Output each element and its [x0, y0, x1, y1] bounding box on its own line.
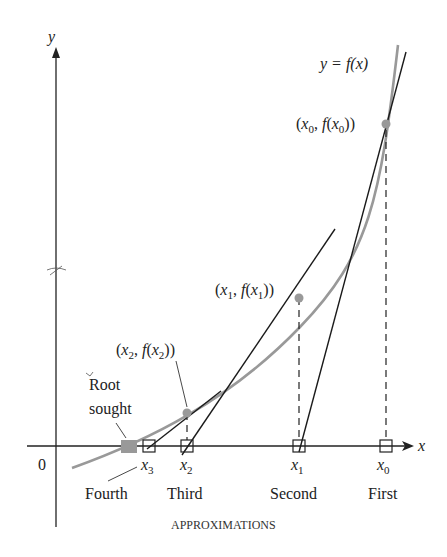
curve-label: y = f(x)	[318, 55, 368, 73]
point-label-x2: (x2, f(x2))	[116, 341, 175, 361]
order-fourth: Fourth	[85, 485, 128, 502]
x-axis	[27, 441, 414, 451]
tick-x3: x3	[140, 456, 154, 476]
point-x0	[382, 120, 391, 129]
y-axis-label: y	[46, 28, 56, 46]
x-axis-label: x	[417, 437, 425, 454]
root-label-line2: sought	[89, 400, 132, 418]
root-marker	[121, 440, 137, 453]
tick-x2: x2	[179, 456, 193, 476]
tangent-lines	[147, 52, 406, 455]
order-second: Second	[270, 485, 317, 502]
root-label-line1: Root	[89, 376, 121, 393]
newton-method-diagram: y x 0 y = f(x) (x0, f(x0)) (x1, f(x1)) (…	[0, 0, 447, 557]
point-label-x0: (x0, f(x0))	[296, 115, 355, 135]
y-axis	[47, 47, 66, 527]
point-label-x1: (x1, f(x1))	[215, 281, 274, 301]
tick-x1: x1	[290, 456, 304, 476]
origin-label: 0	[38, 456, 46, 473]
x-tick-labels: x3 x2 x1 x0	[140, 456, 390, 476]
tick-x0: x0	[376, 456, 390, 476]
caption: APPROXIMATIONS	[171, 518, 276, 532]
order-third: Third	[167, 485, 203, 502]
point-x2	[183, 409, 192, 418]
order-first: First	[368, 485, 398, 502]
point-x1	[295, 294, 304, 303]
